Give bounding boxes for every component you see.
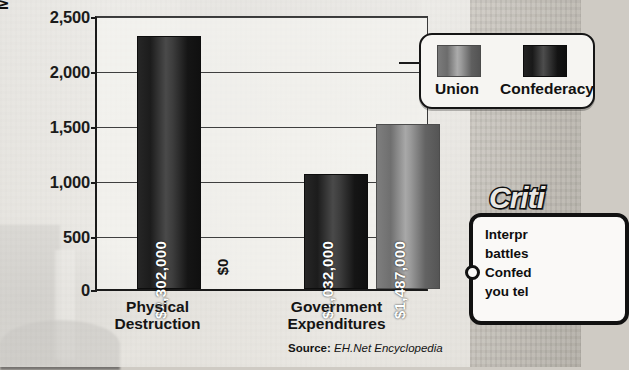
critical-thinking-callout: Interpr battles Confed you tel <box>469 213 629 325</box>
tickmark-1000 <box>91 182 97 184</box>
callout-line-4: you tel <box>485 283 623 302</box>
x-axis-category-physical-destruction: Physical Destruction <box>100 298 215 333</box>
ytick-label-0: 0 <box>81 281 90 300</box>
gridline-2500 <box>97 17 427 18</box>
category-line-2: Expenditures <box>287 315 385 332</box>
bar-value-label-zero: $0 <box>214 259 231 276</box>
ytick-label-1500: 1,500 <box>50 118 90 137</box>
legend-label-confederacy: Confederacy <box>500 80 594 98</box>
source-name: EH.Net Encyclopedia <box>334 342 443 354</box>
callout-text: Interpr battles Confed you tel <box>485 226 623 302</box>
callout-line-3: Confed <box>485 264 623 283</box>
source-note: Source: EH.Net Encyclopedia <box>288 342 443 354</box>
tickmark-0 <box>91 290 97 292</box>
bar-confederacy-government-expenditures[interactable]: $1,032,000 <box>304 174 368 289</box>
critical-thinking-banner: Criti <box>489 181 544 215</box>
legend-label-union: Union <box>435 80 479 98</box>
category-line-1: Government <box>291 298 382 315</box>
source-prefix: Source: <box>288 342 331 354</box>
ytick-label-2500: 2,500 <box>50 8 90 27</box>
tickmark-500 <box>91 237 97 239</box>
y-axis-title: Millions of Dollars <box>0 0 12 42</box>
x-axis-category-government-expenditures: Government Expenditures <box>269 298 404 333</box>
callout-line-2: battles <box>485 245 623 264</box>
chart-legend: Union Confederacy <box>419 33 595 109</box>
category-line-2: Destruction <box>114 315 200 332</box>
legend-swatch-union <box>437 45 481 77</box>
callout-nub <box>465 265 480 280</box>
bar-confederacy-physical-destruction[interactable]: $2,302,000 <box>137 36 201 289</box>
ytick-label-1000: 1,000 <box>50 173 90 192</box>
tickmark-1500 <box>91 127 97 129</box>
ytick-label-500: 500 <box>63 228 90 247</box>
legend-swatch-confederacy <box>523 45 567 77</box>
chart-plot-area: 2,500 2,000 1,500 1,000 500 0 $2,302,000… <box>95 16 428 291</box>
ytick-label-2000: 2,000 <box>50 63 90 82</box>
legend-connector-line <box>399 62 421 64</box>
tickmark-2000 <box>91 72 97 74</box>
callout-line-1: Interpr <box>485 226 623 245</box>
category-line-1: Physical <box>126 298 189 315</box>
tickmark-2500 <box>91 17 97 19</box>
bar-union-government-expenditures[interactable]: $1,487,000 <box>376 124 440 289</box>
